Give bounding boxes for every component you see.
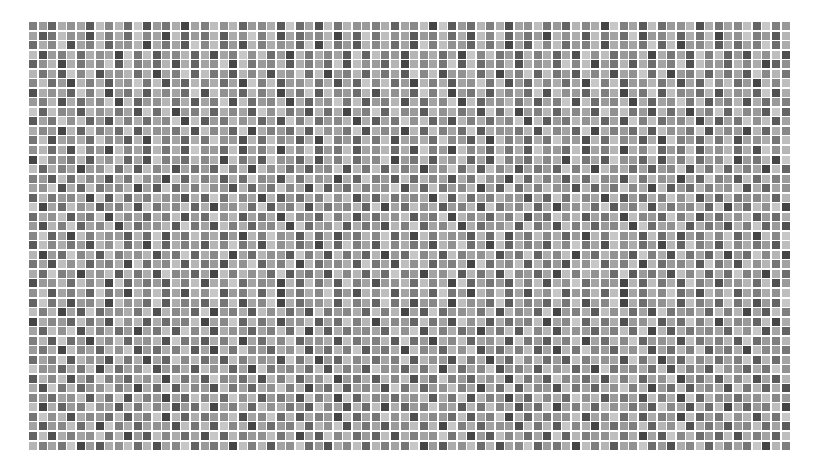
grid-cell xyxy=(715,184,723,192)
grid-cell xyxy=(229,384,237,392)
grid-cell xyxy=(496,403,504,411)
grid-cell xyxy=(277,375,285,383)
grid-cell xyxy=(620,98,628,106)
grid-cell xyxy=(143,146,151,154)
grid-cell xyxy=(315,432,323,440)
grid-cell xyxy=(258,346,266,354)
grid-cell xyxy=(372,270,380,278)
grid-cell xyxy=(134,442,142,450)
grid-cell xyxy=(362,308,370,316)
grid-cell xyxy=(648,89,656,97)
grid-cell xyxy=(505,232,513,240)
grid-cell xyxy=(496,213,504,221)
grid-cell xyxy=(239,432,247,440)
grid-cell xyxy=(401,422,409,430)
grid-cell xyxy=(29,403,37,411)
grid-cell xyxy=(343,22,351,30)
grid-cell xyxy=(362,422,370,430)
grid-cell xyxy=(77,413,85,421)
grid-cell xyxy=(515,394,523,402)
grid-cell xyxy=(534,222,542,230)
grid-cell xyxy=(591,89,599,97)
grid-cell xyxy=(724,32,732,40)
grid-cell xyxy=(134,117,142,125)
grid-cell xyxy=(48,356,56,364)
grid-cell xyxy=(734,60,742,68)
grid-cell xyxy=(477,384,485,392)
grid-cell xyxy=(77,289,85,297)
grid-cell xyxy=(210,184,218,192)
grid-cell xyxy=(458,41,466,49)
grid-cell xyxy=(639,318,647,326)
grid-cell xyxy=(201,251,209,259)
grid-cell xyxy=(229,241,237,249)
grid-cell xyxy=(782,356,790,364)
grid-cell xyxy=(524,432,532,440)
grid-cell xyxy=(553,98,561,106)
grid-cell xyxy=(724,413,732,421)
grid-cell xyxy=(553,213,561,221)
grid-cell xyxy=(58,213,66,221)
grid-cell xyxy=(410,41,418,49)
grid-cell xyxy=(410,375,418,383)
grid-cell xyxy=(372,346,380,354)
grid-cell xyxy=(124,98,132,106)
grid-cell xyxy=(286,213,294,221)
grid-cell xyxy=(591,136,599,144)
grid-cell xyxy=(582,384,590,392)
grid-cell xyxy=(315,222,323,230)
grid-cell xyxy=(239,222,247,230)
grid-cell xyxy=(582,79,590,87)
grid-cell xyxy=(134,308,142,316)
grid-cell xyxy=(305,260,313,268)
grid-cell xyxy=(648,127,656,135)
grid-cell xyxy=(162,127,170,135)
grid-cell xyxy=(86,432,94,440)
grid-cell xyxy=(762,375,770,383)
grid-cell xyxy=(734,98,742,106)
grid-cell xyxy=(753,337,761,345)
grid-cell xyxy=(429,365,437,373)
grid-cell xyxy=(324,146,332,154)
grid-cell xyxy=(124,327,132,335)
grid-cell xyxy=(58,318,66,326)
grid-cell xyxy=(191,442,199,450)
grid-cell xyxy=(582,270,590,278)
grid-cell xyxy=(610,327,618,335)
grid-cell xyxy=(29,384,37,392)
grid-cell xyxy=(543,279,551,287)
grid-cell xyxy=(724,260,732,268)
grid-cell xyxy=(515,442,523,450)
grid-cell xyxy=(181,127,189,135)
grid-cell xyxy=(724,175,732,183)
grid-cell xyxy=(582,98,590,106)
grid-cell xyxy=(591,442,599,450)
grid-cell xyxy=(391,289,399,297)
grid-cell xyxy=(562,299,570,307)
grid-cell xyxy=(534,413,542,421)
grid-cell xyxy=(410,232,418,240)
grid-cell xyxy=(315,165,323,173)
grid-cell xyxy=(620,299,628,307)
grid-cell xyxy=(305,70,313,78)
grid-cell xyxy=(629,232,637,240)
grid-cell xyxy=(648,232,656,240)
grid-cell xyxy=(391,413,399,421)
grid-cell xyxy=(391,232,399,240)
grid-cell xyxy=(286,394,294,402)
grid-cell xyxy=(439,222,447,230)
grid-cell xyxy=(143,299,151,307)
grid-cell xyxy=(296,232,304,240)
grid-cell xyxy=(772,337,780,345)
grid-cell xyxy=(429,260,437,268)
grid-cell xyxy=(343,337,351,345)
grid-cell xyxy=(305,136,313,144)
grid-cell xyxy=(458,251,466,259)
grid-cell xyxy=(667,136,675,144)
grid-cell xyxy=(439,241,447,249)
grid-cell xyxy=(743,318,751,326)
grid-cell xyxy=(372,384,380,392)
grid-cell xyxy=(29,22,37,30)
grid-cell xyxy=(553,241,561,249)
grid-cell xyxy=(115,337,123,345)
